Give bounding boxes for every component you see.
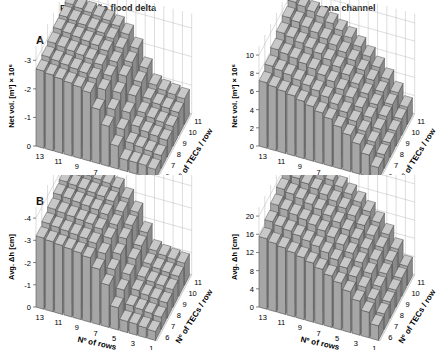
bars (259, 175, 412, 340)
panel-a-faro: Faro-Olhão flood delta A 0-1-2-3Net vol.… (0, 0, 223, 175)
y-axis: 0-1-2-3-4Avg. Δh [cm] (7, 214, 36, 312)
y-tick-label: 0 (250, 303, 254, 312)
plot-area (259, 0, 415, 175)
depth-tick-label: 10 (188, 289, 196, 298)
x-tick-label: 7 (316, 329, 320, 338)
depth-tick-label: 9 (406, 300, 410, 309)
y-tick-label: 10 (246, 51, 254, 60)
y-tick-label: -4 (24, 214, 31, 223)
depth-tick-label: 10 (188, 128, 196, 137)
y-axis: 0246810Net vol. [m³] × 10⁶ (230, 51, 259, 151)
depth-tick-label: 7 (171, 322, 175, 331)
plot-area (36, 0, 192, 175)
depth-tick-label: 11 (417, 117, 425, 126)
x-tick-label: 13 (259, 313, 267, 322)
x-tick-label: 11 (54, 157, 62, 166)
y-axis-label: Avg. Δh [cm] (230, 234, 239, 280)
plot-area (259, 175, 415, 341)
depth-tick-label: 11 (194, 117, 202, 126)
y-axis-label: Net vol. [m³] × 10⁶ (7, 64, 16, 128)
y-tick-label: 0 (27, 142, 31, 151)
x-tick-label: 3 (354, 339, 358, 348)
x-tick-label: 11 (54, 318, 62, 327)
x-tick-label: 11 (277, 157, 285, 166)
x-tick-label: 1 (149, 344, 153, 350)
x-tick-label: 13 (259, 152, 267, 161)
y-tick-label: 16 (246, 230, 254, 239)
chart-b-armona: 048121620Avg. Δh [cm]131197531Nº of rows… (223, 175, 446, 350)
y-tick-label: 8 (250, 267, 254, 276)
depth-tick-label: 11 (194, 278, 202, 287)
y-tick-label: -3 (24, 56, 31, 65)
y-axis-label: Net vol. [m³] × 10⁶ (230, 64, 239, 128)
y-tick-label: 8 (250, 69, 254, 78)
panel-a-armona: Armona channel 0246810Net vol. [m³] × 10… (223, 0, 446, 175)
depth-tick-label: 7 (394, 161, 398, 170)
y-tick-label: 20 (246, 212, 254, 221)
depth-tick-label: 10 (411, 289, 419, 298)
y-axis: 048121620Avg. Δh [cm] (230, 212, 259, 312)
depth-tick-label: 6 (388, 333, 392, 342)
x-tick-label: 7 (93, 329, 97, 338)
y-tick-label: 0 (250, 142, 254, 151)
depth-tick-label: 8 (177, 150, 181, 159)
chart-a-faro: 0-1-2-3Net vol. [m³] × 10⁶131197531Nº of… (0, 0, 223, 175)
depth-tick-label: 7 (394, 322, 398, 331)
x-tick-label: 9 (75, 162, 79, 171)
depth-tick-label: 7 (171, 161, 175, 170)
x-tick-label: 9 (75, 323, 79, 332)
bars (259, 0, 412, 175)
bars (36, 0, 189, 175)
depth-tick-label: 9 (183, 139, 187, 148)
y-tick-label: -2 (24, 259, 31, 268)
panel-b-faro: B 0-1-2-3-4Avg. Δh [cm]131197531Nº of ro… (0, 175, 223, 350)
x-tick-label: 9 (298, 162, 302, 171)
depth-tick-label: 10 (411, 128, 419, 137)
x-tick-label: 3 (131, 339, 135, 348)
y-tick-label: -2 (24, 85, 31, 94)
panel-b-armona: 048121620Avg. Δh [cm]131197531Nº of rows… (223, 175, 446, 350)
depth-tick-label: 8 (400, 150, 404, 159)
y-tick-label: 12 (246, 248, 254, 257)
x-tick-label: 13 (36, 152, 44, 161)
y-tick-label: -1 (24, 113, 31, 122)
y-tick-label: 4 (250, 285, 254, 294)
y-tick-label: 2 (250, 124, 254, 133)
x-tick-label: 1 (372, 344, 376, 350)
y-tick-label: 4 (250, 106, 254, 115)
y-axis: 0-1-2-3Net vol. [m³] × 10⁶ (7, 56, 36, 151)
y-tick-label: 6 (250, 87, 254, 96)
y-tick-label: -1 (24, 281, 31, 290)
x-tick-label: 9 (298, 323, 302, 332)
x-tick-label: 11 (277, 318, 285, 327)
depth-tick-label: 8 (400, 311, 404, 320)
depth-tick-label: 9 (406, 139, 410, 148)
x-tick-label: 7 (93, 168, 97, 175)
depth-tick-label: 11 (417, 278, 425, 287)
depth-tick-label: 6 (165, 333, 169, 342)
y-axis-label: Avg. Δh [cm] (7, 234, 16, 280)
x-tick-label: 13 (36, 313, 44, 322)
depth-tick-label: 9 (183, 300, 187, 309)
depth-tick-label: 8 (177, 311, 181, 320)
chart-a-armona: 0246810Net vol. [m³] × 10⁶131197531Nº of… (223, 0, 446, 175)
plot-area (36, 175, 192, 341)
x-tick-label: 7 (316, 168, 320, 175)
chart-b-faro: 0-1-2-3-4Avg. Δh [cm]131197531Nº of rows… (0, 175, 223, 350)
y-tick-label: 0 (27, 303, 31, 312)
bars (36, 175, 189, 340)
y-tick-label: -3 (24, 236, 31, 245)
